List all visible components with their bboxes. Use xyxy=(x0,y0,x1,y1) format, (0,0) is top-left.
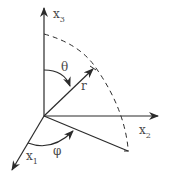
theta-label: θ xyxy=(61,60,68,74)
r-label: r xyxy=(81,79,87,93)
x1-label: x1 xyxy=(26,149,38,166)
phi-arc xyxy=(28,131,73,146)
spherical-coordinates-diagram: x3 x2 x1 θ r φ xyxy=(0,0,169,178)
x2-label: x2 xyxy=(139,123,151,140)
phi-label: φ xyxy=(53,144,61,158)
x3-label: x3 xyxy=(53,7,65,24)
